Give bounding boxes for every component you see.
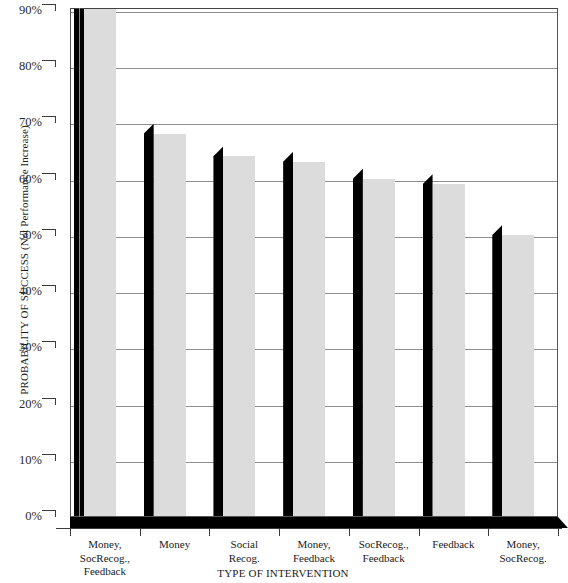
y-tick-label: 50% <box>6 229 42 241</box>
y-tick-mark <box>42 454 56 455</box>
bar-side-face <box>74 8 84 516</box>
plot-area <box>70 8 558 517</box>
y-tick-mark <box>42 60 56 61</box>
bar <box>213 146 255 516</box>
x-category-label: Money,SocRecog. <box>488 538 558 565</box>
x-category-label-line: Money <box>140 538 210 552</box>
bar-side-face <box>423 174 433 516</box>
y-tick-label: 80% <box>6 60 42 72</box>
x-category-label-line: Money, <box>279 538 349 552</box>
gridline <box>71 68 557 69</box>
x-category-label: SocialRecog. <box>209 538 279 565</box>
bar-side-face <box>353 169 363 516</box>
bar-front-face <box>223 156 255 516</box>
x-axis <box>56 528 562 537</box>
bar-front-face <box>502 235 534 516</box>
bar-side-face <box>213 146 223 516</box>
bar-side-face <box>492 225 502 516</box>
y-tick-label: 0% <box>6 510 42 522</box>
bar <box>353 169 395 516</box>
x-category-label: Money,Feedback <box>279 538 349 565</box>
y-tick-mark <box>42 173 56 174</box>
x-tick-mark <box>279 528 280 536</box>
y-tick-label: 30% <box>6 341 42 353</box>
y-tick-mark <box>42 229 56 230</box>
x-category-label-line: SocRecog., <box>349 538 419 552</box>
y-tick-label: 60% <box>6 173 42 185</box>
bar-front-face <box>154 134 186 516</box>
x-category-label: Money <box>140 538 210 552</box>
bar <box>74 8 116 516</box>
x-category-label: SocRecog.,Feedback <box>349 538 419 565</box>
x-category-label-line: Recog. <box>209 552 279 566</box>
x-tick-mark <box>70 528 71 536</box>
bar <box>423 174 465 516</box>
y-tick-mark <box>42 4 56 5</box>
bar-front-face <box>84 8 116 516</box>
x-category-label-line: SocRecog. <box>488 552 558 566</box>
x-axis-line <box>56 528 562 529</box>
x-tick-mark <box>349 528 350 536</box>
x-category-label-line: Feedback <box>279 552 349 566</box>
bar-front-face <box>363 179 395 516</box>
x-tick-mark <box>558 528 559 536</box>
y-tick-mark <box>42 341 56 342</box>
y-tick-mark <box>42 398 56 399</box>
x-axis-base-slab <box>70 517 568 528</box>
x-tick-mark <box>140 528 141 536</box>
x-category-label-line: Feedback <box>419 538 489 552</box>
bar-side-face <box>144 124 154 516</box>
y-tick-mark <box>42 285 56 286</box>
x-category-label-line: SocRecog., <box>70 552 140 566</box>
x-tick-mark <box>209 528 210 536</box>
x-category-label-line: Money, <box>70 538 140 552</box>
gridline <box>71 12 557 13</box>
bar-front-face <box>293 162 325 516</box>
x-tick-mark <box>488 528 489 536</box>
bar <box>492 225 534 516</box>
y-tick-label: 90% <box>6 4 42 16</box>
x-tick-mark <box>419 528 420 536</box>
bar <box>283 152 325 516</box>
x-category-label: Feedback <box>419 538 489 552</box>
y-axis-ticks: 90%80%70%60%50%40%30%20%10%0% <box>0 0 42 583</box>
bar-front-face <box>433 184 465 516</box>
y-tick-mark <box>42 116 56 117</box>
x-axis-title: TYPE OF INTERVENTION <box>0 567 566 579</box>
y-tick-mark <box>42 510 56 511</box>
x-category-label-line: Social <box>209 538 279 552</box>
bar-side-face <box>283 152 293 516</box>
y-tick-label: 10% <box>6 454 42 466</box>
y-tick-label: 20% <box>6 398 42 410</box>
y-tick-label: 70% <box>6 116 42 128</box>
x-category-label-line: Money, <box>488 538 558 552</box>
x-category-label-line: Feedback <box>349 552 419 566</box>
bar <box>144 124 186 516</box>
y-tick-label: 40% <box>6 285 42 297</box>
